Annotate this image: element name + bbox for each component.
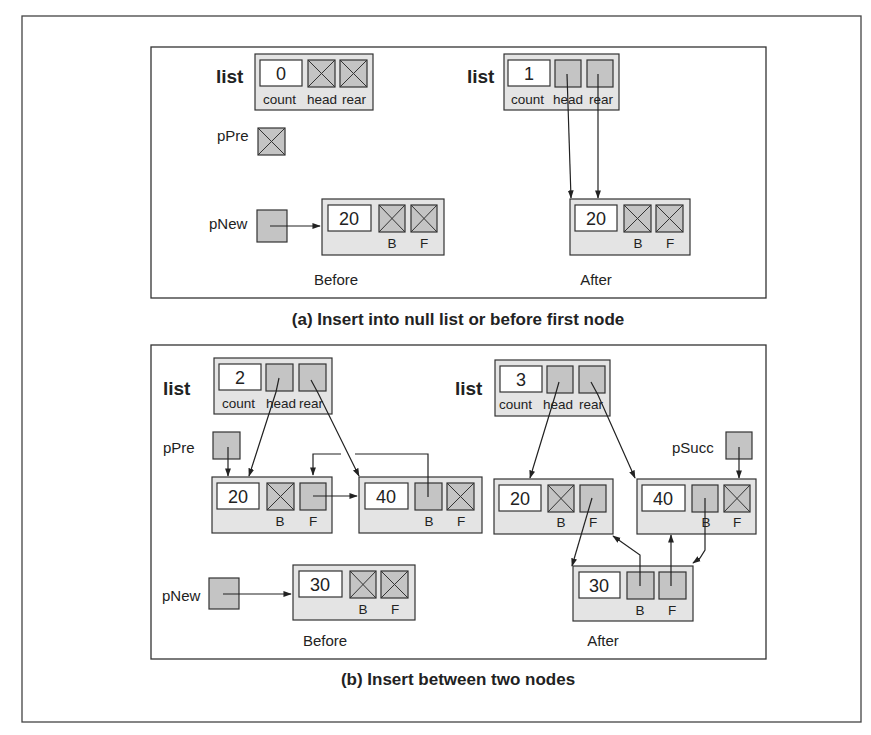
list-label: list [467, 66, 495, 87]
back-label: B [633, 236, 642, 251]
panel-a-after-label: After [580, 271, 612, 288]
panel-a-after-node-20: 20 B F [570, 199, 690, 255]
panel-a-before-node-20: 20 B F [322, 199, 444, 255]
head-pointer [266, 364, 293, 391]
rear-field-label: rear [342, 92, 367, 107]
node-data-value: 20 [586, 209, 606, 229]
back-label: B [701, 515, 710, 530]
fore-label: F [391, 602, 399, 617]
head-field-label: head [307, 92, 337, 107]
ppre-label: pPre [163, 439, 195, 456]
psucc-label: pSucc [672, 439, 714, 456]
list-label: list [216, 66, 244, 87]
count-value: 3 [516, 370, 526, 390]
count-value: 1 [524, 64, 534, 84]
panel-a: list 0 count head rear pPre pNew [151, 47, 766, 298]
node-data-value: 20 [510, 489, 530, 509]
node-data-value: 30 [310, 575, 330, 595]
list-label: list [163, 378, 191, 399]
fore-label: F [420, 236, 428, 251]
pnew-label: pNew [209, 215, 248, 232]
rear-field-label: rear [299, 396, 324, 411]
node-data-value: 30 [589, 576, 609, 596]
rear-pointer [299, 364, 326, 391]
ppre-pointer [213, 432, 240, 459]
panel-b-after-label: After [587, 632, 619, 649]
fore-label: F [589, 515, 597, 530]
panel-a-before-label: Before [314, 271, 358, 288]
fore-label: F [668, 603, 676, 618]
node-data-value: 40 [376, 487, 396, 507]
fore-pointer [659, 572, 686, 599]
rear-pointer [579, 366, 605, 393]
panel-b-before-node-30: 30 B F [293, 565, 415, 620]
pnew-label: pNew [162, 587, 201, 604]
fore-label: F [733, 515, 741, 530]
panel-b-caption: (b) Insert between two nodes [341, 670, 575, 689]
list-label: list [455, 378, 483, 399]
head-pointer [547, 366, 573, 393]
count-field-label: count [222, 396, 255, 411]
panel-a-caption: (a) Insert into null list or before firs… [292, 310, 624, 329]
diagram-root: list 0 count head rear pPre pNew [0, 0, 871, 735]
ppre-label: pPre [217, 127, 249, 144]
fore-label: F [457, 514, 465, 529]
back-label: B [556, 515, 565, 530]
back-label: B [358, 602, 367, 617]
count-field-label: count [511, 92, 544, 107]
head-field-label: head [543, 397, 573, 412]
panel-b: list 2 count head rear pPre 20 B [151, 345, 766, 659]
node-data-value: 20 [228, 487, 248, 507]
back-label: B [424, 514, 433, 529]
panel-b-before-label: Before [303, 632, 347, 649]
fore-label: F [666, 236, 674, 251]
rear-pointer [587, 60, 613, 87]
node-data-value: 20 [339, 209, 359, 229]
count-field-label: count [263, 92, 296, 107]
count-field-label: count [499, 397, 532, 412]
count-value: 2 [235, 368, 245, 388]
count-value: 0 [276, 64, 286, 84]
fore-label: F [309, 514, 317, 529]
insert-node-diagram: list 0 count head rear pPre pNew [0, 0, 871, 735]
node-data-value: 40 [653, 489, 673, 509]
head-pointer [555, 60, 581, 87]
rear-field-label: rear [589, 92, 614, 107]
back-label: B [275, 514, 284, 529]
back-label: B [387, 236, 396, 251]
fore-pointer [580, 485, 606, 512]
back-label: B [635, 603, 644, 618]
